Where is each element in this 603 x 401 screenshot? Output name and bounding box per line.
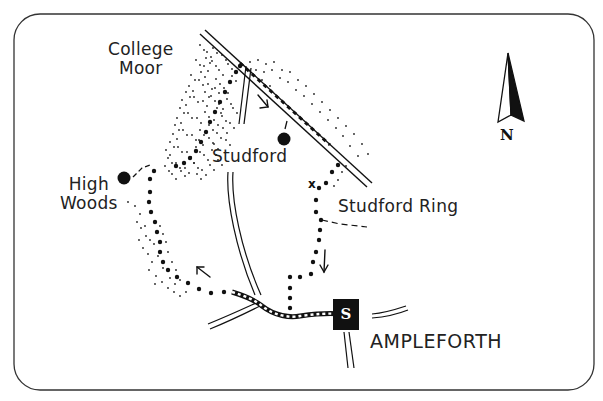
- label-college-moor-line2: Moor: [108, 59, 174, 78]
- label-ampleforth: AMPLEFORTH: [370, 332, 502, 351]
- track-to-ampleforth: [232, 292, 340, 317]
- label-college-moor: College Moor: [108, 40, 174, 78]
- direction-arrow-icon: [197, 267, 210, 277]
- label-studford-ring: Studford Ring: [338, 197, 458, 216]
- studford-ring-pointer: [322, 220, 367, 227]
- path-to-high-woods: [133, 165, 150, 177]
- start-marker-label: S: [334, 305, 358, 323]
- studford-poi-icon: [278, 133, 291, 146]
- north-label: N: [500, 126, 514, 144]
- road-north-south: [228, 66, 261, 295]
- path-to-studford: [285, 121, 287, 129]
- label-high-woods-line1: High: [60, 175, 118, 194]
- woodland-high-woods: [127, 201, 187, 297]
- label-studford: Studford: [212, 147, 287, 166]
- direction-arrow-icon: [320, 250, 328, 272]
- high-woods-poi-icon: [118, 172, 131, 185]
- label-college-moor-line1: College: [108, 40, 174, 59]
- label-high-woods-line2: Woods: [60, 194, 118, 213]
- direction-arrow-icon: [258, 95, 268, 108]
- cross-marker-icon: x: [308, 177, 316, 191]
- north-arrow-icon: [498, 53, 524, 122]
- label-high-woods: High Woods: [60, 175, 118, 213]
